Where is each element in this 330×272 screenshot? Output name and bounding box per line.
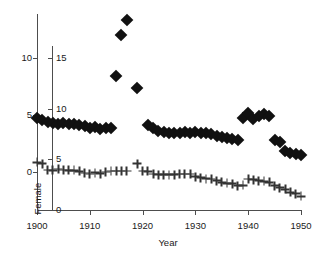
x-axis-tick [195,210,196,215]
y-axis-male-tick-label: 10 [21,53,32,63]
y-axis-female-tick-label: 15 [56,53,67,63]
x-axis-tick [90,210,91,215]
data-point-female [297,192,306,201]
y-axis-female-title: Female [33,183,43,215]
x-axis-tick-label: 1910 [79,221,100,231]
x-axis-tick-label: 1930 [185,221,206,231]
x-axis-title: Year [158,238,177,248]
x-axis-tick-label: 1950 [290,221,311,231]
data-point-male [120,14,133,27]
y-axis-female-tick-label: 5 [56,155,61,165]
y-axis-male-tick-label: 0 [27,167,32,177]
y-axis-female-tick [48,58,53,59]
chart-container: 1900191019201930194019500510051015 Year … [0,0,330,272]
x-axis-tick [143,210,144,215]
y-axis-female-tick-label: 0 [56,205,61,215]
x-axis-line [37,210,301,211]
x-axis-tick [248,210,249,215]
x-axis-tick [301,210,302,215]
y-axis-male-tick [33,58,38,59]
data-point-male [115,29,128,42]
x-axis-tick-label: 1920 [132,221,153,231]
y-axis-female-tick [48,109,53,110]
y-axis-female-tick-label: 10 [56,104,67,114]
y-axis-male-tick [33,172,38,173]
y-axis-female-tick [48,159,53,160]
x-axis-tick-label: 1940 [238,221,259,231]
data-point-male [131,81,144,94]
plot-area: 1900191019201930194019500510051015 Year … [0,0,330,272]
y-axis-female-tick [48,210,53,211]
data-point-female [122,166,131,175]
data-point-male [110,70,123,83]
x-axis-tick-label: 1900 [26,221,47,231]
